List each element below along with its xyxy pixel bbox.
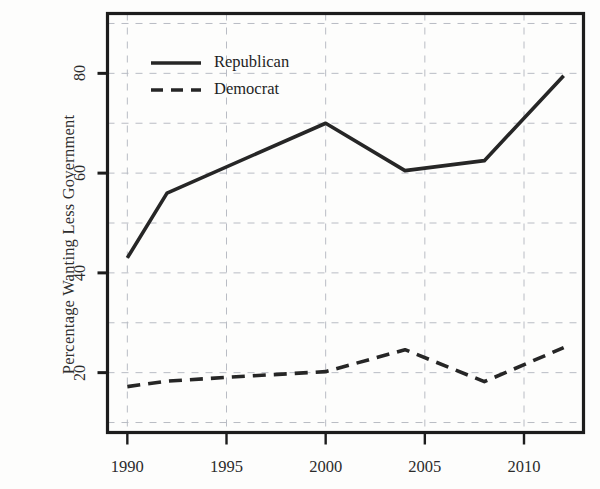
- series-line-democrat: [127, 348, 563, 387]
- x-tick-label: 1995: [210, 457, 243, 477]
- plot-area: [0, 0, 600, 489]
- y-tick-label: 60: [71, 165, 89, 181]
- series-line-republican: [127, 76, 563, 258]
- x-tick-label: 2005: [408, 457, 441, 477]
- y-tick-label: 80: [71, 65, 89, 81]
- x-tick-label: 1990: [111, 457, 144, 477]
- y-tick-label: 40: [71, 265, 89, 281]
- legend-label-democrat: Democrat: [214, 79, 279, 99]
- x-tick-label: 2000: [309, 457, 342, 477]
- chart-figure: Percentage Wanting Less Government 20406…: [0, 0, 600, 489]
- x-tick-label: 2010: [508, 457, 541, 477]
- gridlines: [108, 14, 584, 433]
- legend-line-samples: [151, 63, 201, 90]
- data-series: [127, 76, 563, 387]
- legend-label-republican: Republican: [214, 52, 289, 72]
- y-tick-label: 20: [71, 365, 89, 381]
